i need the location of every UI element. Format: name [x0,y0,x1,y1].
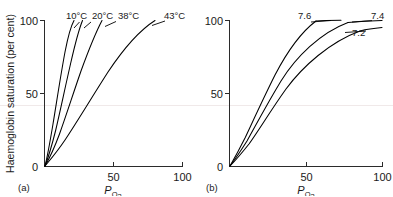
curve-label-38c: 38°C [118,10,139,21]
panel-a-ylabel-100: 100 [20,15,38,27]
panel-b-x-axis-title: PO2 [297,184,314,196]
curve-20c [45,21,83,167]
curve-label-ph-74: 7.4 [371,10,384,21]
curve-38c [45,21,102,167]
panel-b-ylabel-100: 100 [205,15,223,27]
curve-10c [45,21,74,167]
curve-label-ph-76: 7.6 [298,10,311,21]
panel-b-xlabel-50: 50 [300,171,312,183]
panel-b-axes [230,20,384,167]
panel-a-ylabel-0: 0 [32,161,38,173]
panel-a-xlabel-50: 50 [107,171,119,183]
curve-ph-72 [230,31,360,166]
panel-a-x-axis-title-sub2: 2 [118,192,122,197]
figure-container: 100 50 0 50 100 Haemoglobin saturation (… [0,0,393,196]
leader-10c [74,22,80,28]
panel-a-label: (a) [18,182,30,193]
panel-a-axes [45,20,184,167]
panel-b-ylabel-0: 0 [217,161,223,173]
curve-label-43c: 43°C [164,10,185,21]
panel-a-ylabel-50: 50 [26,88,38,100]
leader-38c [105,22,116,27]
panel-a-xlabel-100: 100 [173,171,191,183]
curve-label-ph-72: 7.2 [352,27,365,38]
panel-b-ylabel-50: 50 [211,88,223,100]
panel-a: 100 50 0 50 100 Haemoglobin saturation (… [4,10,192,196]
panel-b: 100 50 0 50 100 PO2 (b) [205,10,392,196]
curve-ph-74 [230,23,348,167]
panel-b-label: (b) [206,182,218,193]
panel-b-xlabel-100: 100 [373,171,391,183]
curve-label-10c: 10°C [66,10,87,21]
curve-label-20c: 20°C [92,10,113,21]
leader-20c [84,22,91,28]
panel-b-x-axis-title-sub2: 2 [311,192,315,197]
panel-a-y-axis-title: Haemoglobin saturation (per cent) [4,14,16,173]
figure-svg: 100 50 0 50 100 Haemoglobin saturation (… [0,0,393,196]
panel-a-x-axis-title: PO2 [104,184,121,196]
curve-43c [45,21,155,167]
